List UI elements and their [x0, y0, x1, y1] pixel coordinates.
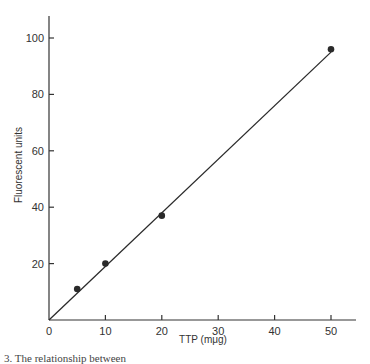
x-axis-title: TTP (mμg)	[179, 334, 227, 345]
data-point	[328, 46, 335, 53]
fit-line	[49, 52, 331, 320]
x-tick-label: 0	[46, 325, 52, 337]
axes	[49, 16, 356, 320]
x-tick-label: 20	[156, 325, 168, 337]
x-tick-label: 10	[99, 325, 111, 337]
plot-area	[49, 46, 334, 320]
x-tick-label: 40	[268, 325, 280, 337]
y-tick-label: 100	[26, 32, 44, 44]
y-ticks: 20406080100	[26, 32, 54, 270]
data-point	[102, 260, 109, 267]
y-tick-label: 80	[32, 88, 44, 100]
y-tick-label: 20	[32, 258, 44, 270]
y-tick-label: 40	[32, 201, 44, 213]
x-tick-label: 50	[325, 325, 337, 337]
y-axis-title: Fluorescent units	[13, 127, 24, 203]
data-point	[159, 212, 166, 219]
figure-caption: 3. The relationship between	[4, 352, 126, 364]
y-tick-label: 60	[32, 145, 44, 157]
data-point	[74, 286, 81, 293]
